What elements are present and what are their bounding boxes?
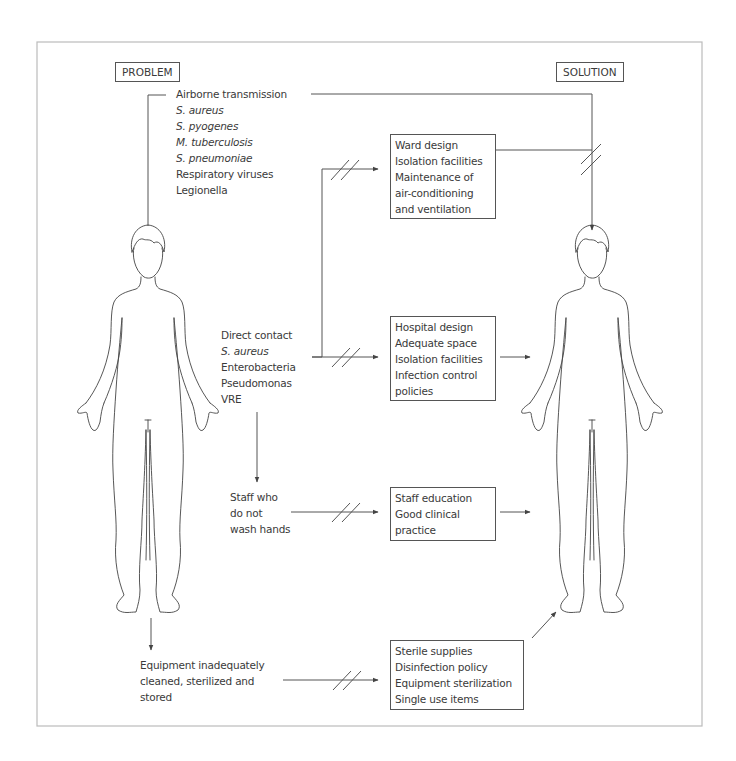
problem-header: PROBLEM [115, 62, 180, 82]
text-line: Single use items [395, 691, 519, 707]
text-line: Equipment inadequately [140, 657, 265, 673]
text-line: Sterile supplies [395, 643, 519, 659]
text-line: Ward design [395, 137, 491, 153]
text-line: Equipment sterilization [395, 675, 519, 691]
direct-contact-list: Direct contact S. aureus Enterobacteria … [221, 327, 296, 407]
problem-header-text: PROBLEM [122, 66, 173, 78]
hospital-design-box: Hospital design Adequate space Isolation… [390, 316, 496, 401]
human-outline [522, 225, 663, 613]
airborne-transmission-list: Airborne transmission S. aureus S. pyoge… [176, 86, 287, 198]
text-line: Disinfection policy [395, 659, 519, 675]
break-mark [581, 155, 601, 175]
text-line: Infection control [395, 367, 491, 383]
diagram-canvas [0, 0, 736, 761]
text-line: Hospital design [395, 319, 491, 335]
break-mark [341, 160, 359, 180]
staff-hygiene-problem: Staff who do not wash hands [230, 489, 290, 537]
airborne-bracket [148, 95, 166, 226]
pathogen: VRE [221, 391, 296, 407]
organism: S. aureus [176, 102, 287, 118]
organism: M. tuberculosis [176, 134, 287, 150]
text-line: air-conditioning [395, 185, 491, 201]
pathogen: Enterobacteria [221, 359, 296, 375]
text-line: Adequate space [395, 335, 491, 351]
break-mark [331, 160, 349, 180]
text-line: policies [395, 383, 491, 399]
ward-design-box: Ward design Isolation facilities Mainten… [390, 134, 496, 219]
pathogen: Pseudomonas [221, 375, 296, 391]
organism: S. pneumoniae [176, 150, 287, 166]
text-line: practice [395, 522, 491, 538]
solution-figure [522, 225, 663, 613]
direct-contact-to-ward-line [312, 169, 378, 357]
text-line: cleaned, sterilized and [140, 673, 265, 689]
equipment-problem: Equipment inadequately cleaned, steriliz… [140, 657, 265, 705]
human-outline [78, 225, 219, 613]
text-line: do not [230, 505, 290, 521]
organism: S. aureus [221, 343, 296, 359]
text-line: wash hands [230, 521, 290, 537]
text-line: and ventilation [395, 201, 491, 217]
pathogen: Legionella [176, 182, 287, 198]
text-line: Isolation facilities [395, 153, 491, 169]
text-line: Staff education [395, 490, 491, 506]
outer-frame [37, 42, 702, 726]
text-line: stored [140, 689, 265, 705]
pathogen: Respiratory viruses [176, 166, 287, 182]
text-line: Staff who [230, 489, 290, 505]
organism: S. pyogenes [176, 118, 287, 134]
text-line: Maintenance of [395, 169, 491, 185]
problem-figure [78, 225, 219, 613]
direct-contact-title: Direct contact [221, 327, 296, 343]
sterile-supplies-box: Sterile supplies Disinfection policy Equ… [390, 640, 524, 710]
solution-header-text: SOLUTION [563, 66, 617, 78]
staff-education-box: Staff education Good clinical practice [390, 487, 496, 541]
text-line: Isolation facilities [395, 351, 491, 367]
break-mark [581, 144, 601, 164]
solution-header: SOLUTION [556, 62, 624, 82]
sterile-to-solution-arrow [532, 612, 556, 638]
airborne-title: Airborne transmission [176, 86, 287, 102]
text-line: Good clinical [395, 506, 491, 522]
